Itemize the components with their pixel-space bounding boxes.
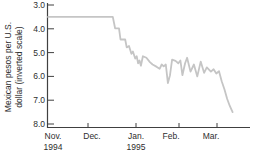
- y-tick-label: 3.0: [33, 0, 45, 10]
- y-tick-label: 5.0: [33, 48, 45, 58]
- y-tick-label: 6.0: [33, 71, 45, 81]
- x-month-label: Jan.: [128, 131, 144, 141]
- series-line-pesos: [48, 17, 233, 112]
- x-month-label: Mar.: [203, 131, 220, 141]
- y-tick-label: 8.0: [33, 119, 45, 129]
- x-year-label: 1995: [127, 142, 146, 152]
- chart-figure: Mexican pesos per U.S. dollar (inverted …: [0, 0, 253, 161]
- x-month-label: Dec.: [83, 131, 100, 141]
- x-year-label: 1994: [44, 142, 63, 152]
- axis-lines: [48, 3, 251, 128]
- y-tick-label: 4.0: [33, 24, 45, 34]
- x-month-label: Feb.: [162, 131, 179, 141]
- line-chart: 3.04.05.06.07.08.0Nov.1994Dec.Jan.1995Fe…: [0, 0, 253, 161]
- y-tick-label: 7.0: [33, 95, 45, 105]
- x-month-label: Nov.: [45, 131, 62, 141]
